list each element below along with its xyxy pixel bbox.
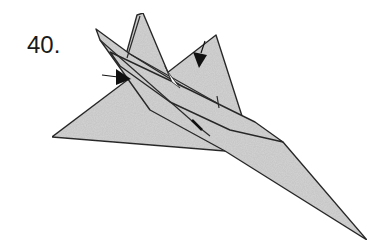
paper-airplane-illustration [0, 0, 383, 242]
